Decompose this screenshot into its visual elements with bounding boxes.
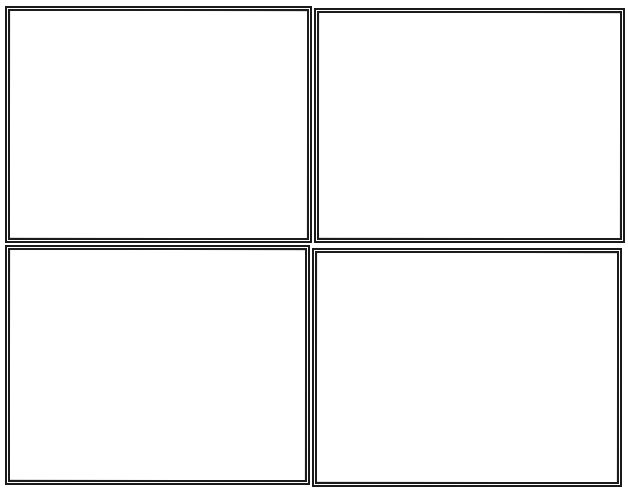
comic-panel-bottom-left <box>5 245 310 485</box>
comic-panel-top-right <box>314 8 625 243</box>
comic-panel-top-left <box>5 6 312 243</box>
comic-panel-bottom-right <box>312 248 622 487</box>
